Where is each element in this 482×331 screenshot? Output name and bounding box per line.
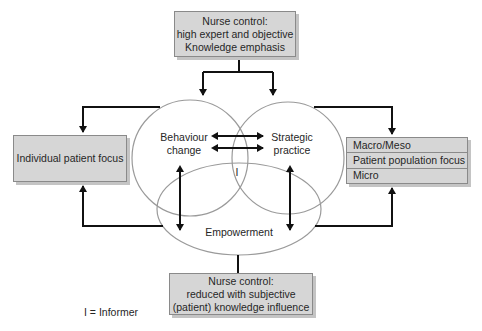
- strategic-label-line-1: Strategic: [262, 131, 322, 144]
- bottom-box-line-3: (patient) knowledge influence: [173, 301, 310, 314]
- strategic-label-line-2: practice: [262, 144, 322, 157]
- legend-informer: I = Informer: [84, 306, 138, 319]
- population-focus-box: Macro/Meso Patient population focus Micr…: [346, 137, 468, 184]
- individual-patient-focus-box: Individual patient focus: [13, 135, 127, 182]
- left-box-label: Individual patient focus: [17, 152, 124, 165]
- macro-meso-row: Macro/Meso: [347, 138, 467, 153]
- bottom-nurse-control-box: Nurse control: reduced with subjective (…: [169, 273, 313, 315]
- behaviour-label-line-1: Behaviour: [152, 131, 216, 144]
- strategic-practice-circle: [232, 102, 344, 214]
- micro-row: Micro: [347, 169, 467, 183]
- informer-marker: I: [231, 166, 243, 179]
- bottom-box-line-1: Nurse control:: [208, 275, 273, 288]
- behaviour-change-circle: [132, 100, 248, 216]
- top-box-line-2: high expert and objective: [177, 28, 294, 41]
- top-nurse-control-box: Nurse control: high expert and objective…: [174, 11, 296, 57]
- top-box-line-3: Knowledge emphasis: [185, 41, 285, 54]
- empowerment-label: Empowerment: [199, 226, 279, 239]
- top-box-line-1: Nurse control:: [202, 15, 267, 28]
- behaviour-label-line-2: change: [152, 144, 216, 157]
- strategic-practice-label: Strategic practice: [262, 131, 322, 157]
- behaviour-change-label: Behaviour change: [152, 131, 216, 157]
- bottom-box-line-2: reduced with subjective: [186, 288, 295, 301]
- patient-population-row: Patient population focus: [347, 153, 467, 168]
